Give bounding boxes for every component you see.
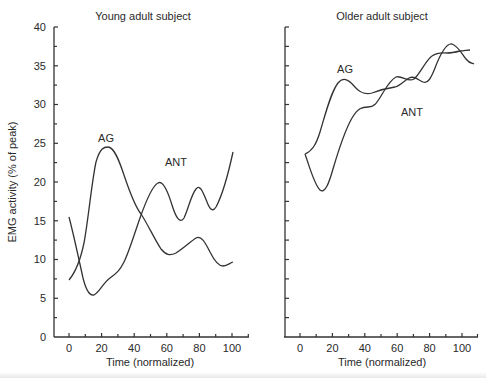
right-chart: Older adult subject 0 20 40 60 80 <box>284 10 478 368</box>
left-chart: Young adult subject 0 5 10 15 20 25 30 3… <box>6 10 249 368</box>
left-ant-label: ANT <box>165 156 187 168</box>
svg-text:60: 60 <box>391 342 403 354</box>
figure-caption-cropped <box>0 372 486 378</box>
svg-text:0: 0 <box>66 342 72 354</box>
svg-text:25: 25 <box>34 137 46 149</box>
right-ag-label: AG <box>337 63 353 75</box>
svg-text:40: 40 <box>359 342 371 354</box>
right-chart-title: Older adult subject <box>336 10 428 22</box>
right-ant-label: ANT <box>401 106 423 118</box>
svg-text:35: 35 <box>34 60 46 72</box>
svg-text:15: 15 <box>34 215 46 227</box>
svg-text:40: 40 <box>34 21 46 33</box>
svg-text:40: 40 <box>128 342 140 354</box>
left-ag-curve <box>69 147 233 280</box>
left-chart-title: Young adult subject <box>95 10 191 22</box>
svg-text:10: 10 <box>34 253 46 265</box>
svg-text:0: 0 <box>40 331 46 343</box>
svg-text:5: 5 <box>40 292 46 304</box>
y-axis-title: EMG activity (% of peak) <box>6 121 18 242</box>
figure: Young adult subject 0 5 10 15 20 25 30 3… <box>0 0 486 378</box>
right-x-tick-labels: 0 20 40 60 80 100 <box>297 342 471 354</box>
svg-text:80: 80 <box>423 342 435 354</box>
svg-text:20: 20 <box>95 342 107 354</box>
svg-text:100: 100 <box>223 342 241 354</box>
svg-text:20: 20 <box>326 342 338 354</box>
right-x-axis-title: Time (normalized) <box>338 356 426 368</box>
svg-text:80: 80 <box>193 342 205 354</box>
right-ant-curve <box>305 50 470 191</box>
svg-text:20: 20 <box>34 176 46 188</box>
svg-text:30: 30 <box>34 98 46 110</box>
right-ag-curve <box>305 44 474 154</box>
svg-text:100: 100 <box>453 342 471 354</box>
svg-text:60: 60 <box>161 342 173 354</box>
left-x-axis-title: Time (normalized) <box>106 356 194 368</box>
svg-text:0: 0 <box>297 342 303 354</box>
left-ag-label: AG <box>98 132 114 144</box>
left-x-tick-labels: 0 20 40 60 80 100 <box>66 342 241 354</box>
left-y-tick-labels: 0 5 10 15 20 25 30 35 40 <box>34 21 46 343</box>
